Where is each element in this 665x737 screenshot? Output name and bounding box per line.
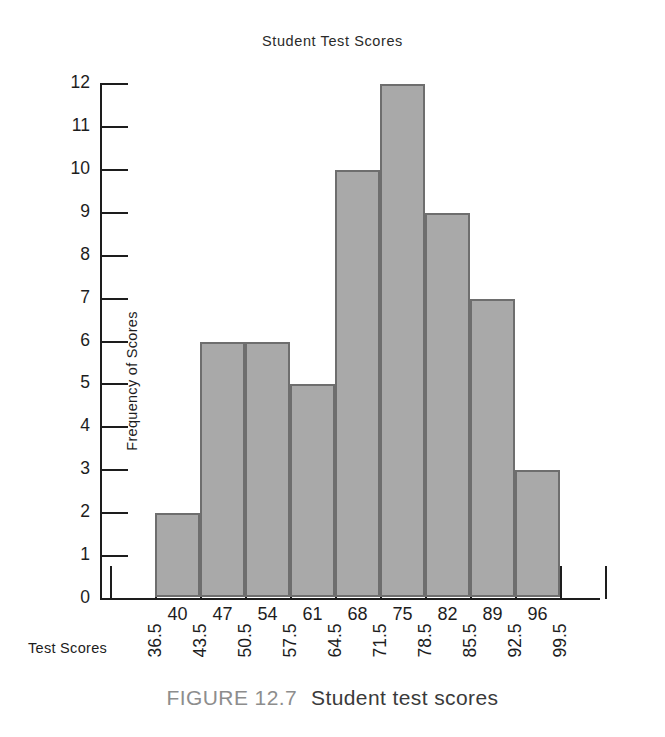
- y-axis-tick-label: 12: [30, 74, 90, 92]
- histogram-bar[interactable]: [470, 299, 515, 597]
- y-axis-tick-label: 9: [30, 203, 90, 221]
- y-axis-tick-label: 4: [30, 417, 90, 435]
- x-axis-boundary-label: 92.5: [505, 596, 526, 686]
- x-axis-boundary-label: 71.5: [370, 596, 391, 686]
- x-axis-boundary-label: 64.5: [325, 596, 346, 686]
- y-axis-tick: [102, 598, 128, 600]
- y-axis-tick-label: 0: [30, 589, 90, 607]
- y-axis-tick-label: 2: [30, 503, 90, 521]
- x-axis-boundary-label: 43.5: [190, 596, 211, 686]
- x-axis-boundary-label: 99.5: [550, 596, 571, 686]
- y-axis-title: Frequency of Scores: [124, 181, 140, 581]
- x-axis-boundary-label: 36.5: [145, 596, 166, 686]
- y-axis-tick-label: 3: [30, 460, 90, 478]
- x-axis-boundary-label: 50.5: [235, 596, 256, 686]
- y-axis-tick-label: 1: [30, 546, 90, 564]
- histogram-bar[interactable]: [380, 84, 425, 597]
- y-axis-tick-labels: 1211109876543210: [0, 0, 100, 737]
- figure-number: FIGURE 12.7: [167, 686, 297, 709]
- histogram-bar[interactable]: [200, 342, 245, 598]
- histogram-bar[interactable]: [515, 470, 560, 597]
- y-axis-tick-label: 8: [30, 246, 90, 264]
- y-axis-tick: [102, 126, 128, 128]
- histogram-bar[interactable]: [425, 213, 470, 597]
- histogram-bar[interactable]: [335, 170, 380, 597]
- y-axis-tick: [102, 83, 128, 85]
- x-axis-boundary-label: 57.5: [280, 596, 301, 686]
- y-axis-tick-label: 11: [30, 117, 90, 135]
- y-axis-tick-label: 6: [30, 332, 90, 350]
- figure-caption-text: Student test scores: [311, 686, 498, 709]
- figure-caption: FIGURE 12.7Student test scores: [0, 686, 665, 710]
- histogram-bar[interactable]: [290, 384, 335, 597]
- histogram-bar[interactable]: [155, 513, 200, 597]
- y-axis-tick-label: 5: [30, 374, 90, 392]
- y-axis-tick-label: 10: [30, 160, 90, 178]
- y-axis-tick-label: 7: [30, 289, 90, 307]
- x-axis-boundary-label: 78.5: [415, 596, 436, 686]
- x-axis-boundary-tick: [605, 566, 607, 599]
- figure-container: Student Test Scores 1211109876543210 Fre…: [0, 0, 665, 737]
- x-axis-boundary-tick: [110, 566, 112, 599]
- plot-area: Frequency of Scores: [100, 83, 600, 599]
- x-axis-title: Test Scores: [28, 640, 107, 656]
- x-axis-boundary-tick: [560, 566, 562, 599]
- histogram-bar[interactable]: [245, 342, 290, 598]
- x-axis-boundary-label: 85.5: [460, 596, 481, 686]
- y-axis-tick: [102, 169, 128, 171]
